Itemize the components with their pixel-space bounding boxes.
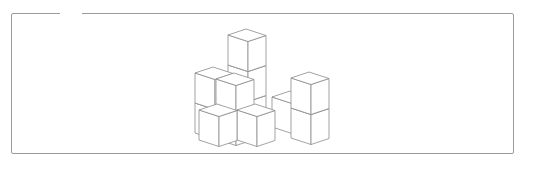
cube-stack [195, 29, 329, 147]
isometric-cube-figure [0, 0, 554, 171]
